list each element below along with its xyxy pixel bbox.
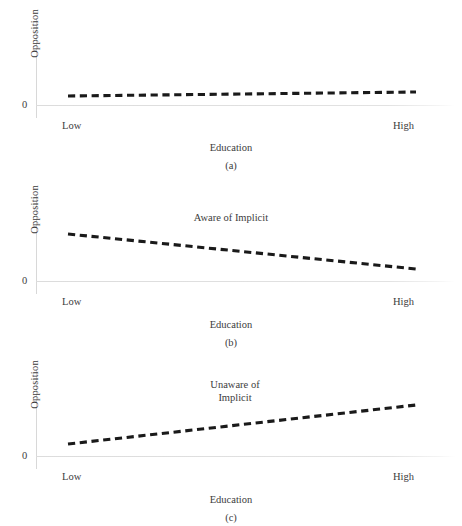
- x-axis-label-b: Education: [0, 319, 462, 330]
- y-tick-zero-a: 0: [22, 99, 27, 110]
- chart-panel-c: Opposition 0 Low High Education (c): [0, 351, 462, 526]
- annotation-unaware-of-implicit: Unaware of Implicit: [152, 379, 318, 404]
- panel-caption-c: (c): [0, 512, 462, 523]
- y-tick-zero-b: 0: [22, 275, 27, 286]
- y-tick-zero-c: 0: [22, 450, 27, 461]
- y-axis-label-c: Opposition: [29, 345, 40, 425]
- trend-line-svg-a: [36, 18, 456, 108]
- x-tick-low-a: Low: [62, 120, 81, 131]
- x-tick-high-c: High: [393, 471, 414, 482]
- y-axis-label-b: Opposition: [29, 170, 40, 250]
- x-axis-label-c: Education: [0, 494, 462, 505]
- chart-panel-b: Opposition 0 Low High Education (b): [0, 176, 462, 351]
- x-axis-label-a: Education: [0, 142, 462, 153]
- x-tick-low-b: Low: [62, 296, 81, 307]
- chart-panel-a: Opposition 0 Low High Education (a): [0, 0, 462, 176]
- trend-line-b: [68, 234, 416, 269]
- x-tick-high-b: High: [393, 296, 414, 307]
- trend-line-c: [68, 405, 416, 444]
- y-axis-label-a: Opposition: [29, 0, 40, 74]
- figure-container: Opposition 0 Low High Education (a) Oppo…: [0, 0, 462, 526]
- annotation-aware-of-implicit: Aware of Implicit: [146, 212, 316, 225]
- panel-caption-b: (b): [0, 337, 462, 348]
- trend-line-a: [68, 92, 416, 96]
- x-tick-high-a: High: [393, 120, 414, 131]
- panel-caption-a: (a): [0, 160, 462, 171]
- trend-line-svg-b: [36, 194, 456, 284]
- x-tick-low-c: Low: [62, 471, 81, 482]
